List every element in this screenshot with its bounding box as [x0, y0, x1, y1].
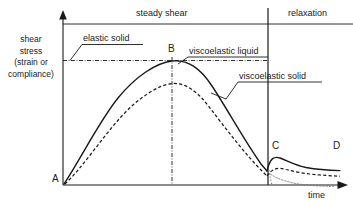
annotation-viscoelastic-liquid: viscoelastic liquid: [189, 46, 259, 57]
x-axis-label: time: [308, 190, 325, 201]
viscoelastic-solid-leader-line-2: [211, 93, 226, 99]
rheology-diagram: shear stress (strain or compliance) stea…: [0, 0, 353, 209]
point-label-d: D: [333, 140, 340, 151]
curve-viscous-relaxation-dotted: [268, 172, 334, 186]
curve-viscoelastic-solid: [65, 83, 267, 184]
x-axis-arrow: [338, 181, 349, 189]
region-label-steady-shear: steady shear: [136, 8, 188, 19]
y-axis-label-line-2: stress: [2, 46, 60, 58]
elastic-solid-leader-line: [70, 45, 82, 61]
point-label-b: B: [168, 43, 175, 54]
point-label-c: C: [272, 140, 279, 151]
viscoelastic-solid-leader-line-1: [226, 82, 238, 99]
annotation-viscoelastic-solid: viscoelastic solid: [239, 71, 306, 82]
y-axis-label-line-4: compliance): [2, 69, 60, 81]
y-axis-label-line-3: (strain or: [2, 57, 60, 69]
curve-viscoelastic-liquid: [64, 61, 267, 184]
curve-viscous-drop-dotted: [269, 170, 272, 185]
y-axis-arrow: [59, 10, 67, 20]
point-label-a: A: [52, 173, 59, 184]
y-axis-label: shear stress (strain or compliance): [2, 34, 60, 80]
y-axis-label-line-1: shear: [2, 34, 60, 46]
annotation-elastic-solid: elastic solid: [83, 33, 130, 44]
region-label-relaxation: relaxation: [288, 8, 327, 19]
